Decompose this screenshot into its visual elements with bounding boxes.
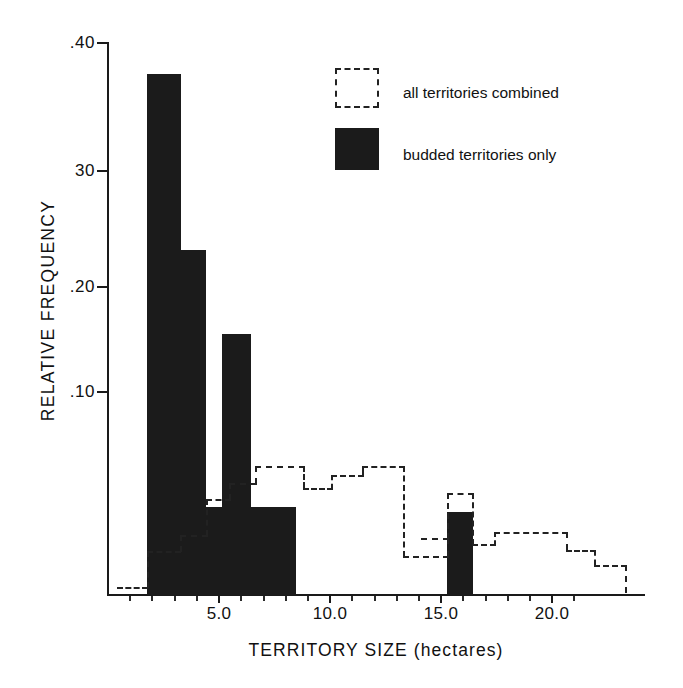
legend-swatch-solid-box (335, 128, 379, 170)
x-tick-minor (418, 596, 420, 601)
dash-riser-9 (403, 466, 405, 557)
dash-top-seg-6 (255, 466, 305, 468)
chart-legend: all territories combined budded territor… (335, 62, 625, 186)
dash-top-seg-13 (472, 544, 496, 546)
dash-riser-11 (447, 493, 449, 539)
x-tick-minor (396, 596, 398, 601)
y-tick-text: .40 (70, 33, 95, 53)
dash-riser-6 (303, 466, 305, 488)
x-tick-minor (374, 596, 376, 601)
x-tick-major-20 (551, 596, 553, 603)
dash-riser-2 (180, 535, 182, 552)
y-tick-text: .20 (70, 277, 95, 297)
dash-top-seg-15 (566, 550, 596, 552)
x-tick-minor (573, 596, 575, 601)
dash-riser-1 (147, 551, 149, 588)
legend-label: budded territories only (403, 146, 556, 164)
dash-top-seg-5 (229, 483, 257, 485)
x-tick-label-15: 15.0 (424, 604, 458, 624)
x-tick-minor (351, 596, 353, 601)
x-tick-minor (196, 596, 198, 601)
x-tick-minor (507, 596, 509, 601)
chart-figure: .40 30 .20 .10 RELATIVE FREQUENCY 5.0 10… (0, 0, 683, 688)
x-tick-minor (285, 596, 287, 601)
y-tick-label-0.40: .40 (0, 33, 95, 51)
x-tick-minor (307, 596, 309, 601)
x-axis-title: TERRITORY SIZE (hectares) (107, 640, 645, 661)
dash-riser-12 (472, 493, 474, 545)
x-tick-minor (263, 596, 265, 601)
x-tick-minor (485, 596, 487, 601)
x-tick-minor (529, 596, 531, 601)
dash-riser-14 (566, 532, 568, 550)
y-tick-mark-0.30 (97, 170, 108, 172)
x-tick-label-10: 10.0 (313, 604, 347, 624)
y-tick-mark-0.40 (97, 42, 108, 44)
bar-budded-6 (447, 512, 473, 595)
dash-riser-15 (594, 550, 596, 565)
dash-riser-10 (447, 538, 449, 557)
x-tick-minor (174, 596, 176, 601)
dash-riser-4 (229, 483, 231, 500)
legend-item-budded-territories: budded territories only (335, 124, 625, 186)
dash-top-seg-12 (447, 493, 474, 495)
y-tick-label-0.30: 30 (0, 161, 95, 179)
dash-riser-3 (206, 499, 208, 536)
legend-swatch-dashed-box (335, 68, 379, 108)
x-tick-minor (129, 596, 131, 601)
y-axis-title: RELATIVE FREQUENCY (38, 191, 59, 431)
bar-budded-4 (222, 334, 251, 595)
x-tick-label-20: 20.0 (535, 604, 569, 624)
y-tick-text: .10 (70, 382, 95, 402)
bar-budded-3 (206, 507, 222, 595)
dash-top-seg-10 (403, 556, 449, 558)
bar-budded-1 (147, 74, 181, 595)
bar-budded-5 (251, 507, 296, 595)
dash-top-seg-4 (206, 499, 231, 501)
x-tick-major-5 (218, 596, 220, 603)
dash-riser-5 (255, 466, 257, 484)
dash-top-seg-2 (147, 551, 181, 553)
dash-top-seg-9 (362, 466, 405, 468)
x-tick-label-5: 5.0 (207, 604, 232, 624)
y-tick-text: 30 (75, 161, 95, 181)
dash-riser-16 (625, 565, 627, 593)
dash-top-seg-7 (303, 488, 333, 490)
legend-label: all territories combined (403, 84, 559, 102)
y-tick-mark-0.10 (97, 391, 108, 393)
legend-item-all-territories: all territories combined (335, 62, 625, 124)
x-tick-minor (151, 596, 153, 601)
dash-riser-7 (331, 475, 333, 489)
x-tick-minor (240, 596, 242, 601)
dash-top-seg-16 (594, 565, 627, 567)
x-tick-major-10 (329, 596, 331, 603)
x-tick-major-15 (440, 596, 442, 603)
dash-top-seg-3 (180, 535, 208, 537)
y-tick-mark-0.20 (97, 286, 108, 288)
x-tick-minor (462, 596, 464, 601)
bar-budded-2 (181, 250, 206, 595)
dash-top-seg-1 (117, 587, 148, 589)
y-axis-line (107, 42, 109, 596)
dash-top-seg-14 (494, 532, 568, 534)
dash-top-seg-8 (331, 475, 364, 477)
dash-top-seg-11 (421, 538, 449, 540)
